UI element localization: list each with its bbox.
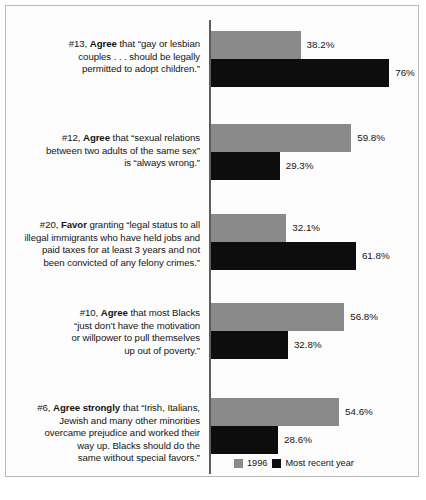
category-label-line: or willpower to pull themselves — [10, 332, 200, 345]
bar-value-1996: 38.2% — [307, 39, 335, 50]
category-label-line: illegal immigrants who have held jobs an… — [10, 232, 200, 245]
category-label-line: overcame prejudice and worked their — [10, 427, 200, 440]
bar-value-most-recent-year: 29.3% — [286, 160, 314, 171]
legend-item: Most recent year — [272, 458, 353, 468]
category-label: #6, Agree strongly that “Irish, Italians… — [10, 402, 200, 465]
bar-most-recent-year — [211, 242, 356, 270]
bar-most-recent-year — [211, 331, 288, 359]
bar-value-most-recent-year: 76% — [395, 67, 415, 78]
category-label-line: way up. Blacks should do the — [10, 440, 200, 453]
bar-1996 — [211, 398, 339, 426]
legend-label: Most recent year — [285, 458, 353, 468]
bar-value-1996: 54.6% — [345, 406, 373, 417]
category-label-line: #12, Agree that “sexual relations — [10, 132, 200, 145]
bar-value-1996: 59.8% — [357, 132, 385, 143]
category-label-line: #13, Agree that “gay or lesbian — [10, 38, 200, 51]
category-label-line: paid taxes for at least 3 years and not — [10, 244, 200, 257]
legend-swatch-icon — [272, 459, 281, 468]
category-label-line: up out of poverty.” — [10, 345, 200, 358]
category-label: #10, Agree that most Blacks“just don’t h… — [10, 307, 200, 357]
category-label: #13, Agree that “gay or lesbiancouples .… — [10, 38, 200, 76]
bar-most-recent-year — [211, 152, 280, 180]
category-label-line: been convicted of any felony crimes.” — [10, 257, 200, 270]
legend-swatch-icon — [234, 459, 243, 468]
bar-most-recent-year — [211, 59, 389, 87]
chart-legend: 1996Most recent year — [234, 458, 354, 468]
bar-1996 — [211, 31, 301, 59]
category-label-line: between two adults of the same sex” — [10, 145, 200, 158]
bar-value-most-recent-year: 61.8% — [362, 250, 390, 261]
bar-1996 — [211, 303, 344, 331]
category-label-line: is “always wrong.” — [10, 157, 200, 170]
category-label-line: same without special favors.” — [10, 452, 200, 465]
bar-1996 — [211, 214, 286, 242]
category-label-line: #20, Favor granting “legal status to all — [10, 219, 200, 232]
category-label-line: couples . . . should be legally — [10, 51, 200, 64]
category-label: #12, Agree that “sexual relationsbetween… — [10, 132, 200, 170]
bar-value-1996: 32.1% — [292, 222, 320, 233]
bar-value-most-recent-year: 32.8% — [294, 339, 322, 350]
category-label: #20, Favor granting “legal status to all… — [10, 219, 200, 269]
chart-container: #13, Agree that “gay or lesbiancouples .… — [5, 5, 419, 477]
category-label-line: permitted to adopt children.” — [10, 63, 200, 76]
bar-value-most-recent-year: 28.6% — [284, 434, 312, 445]
category-label-line: Jewish and many other minorities — [10, 415, 200, 428]
category-label-line: “just don’t have the motivation — [10, 320, 200, 333]
legend-label: 1996 — [247, 458, 267, 468]
legend-item: 1996 — [234, 458, 267, 468]
bar-most-recent-year — [211, 426, 278, 454]
category-label-line: #6, Agree strongly that “Irish, Italians… — [10, 402, 200, 415]
category-label-line: #10, Agree that most Blacks — [10, 307, 200, 320]
bar-1996 — [211, 124, 351, 152]
bar-value-1996: 56.8% — [350, 311, 378, 322]
